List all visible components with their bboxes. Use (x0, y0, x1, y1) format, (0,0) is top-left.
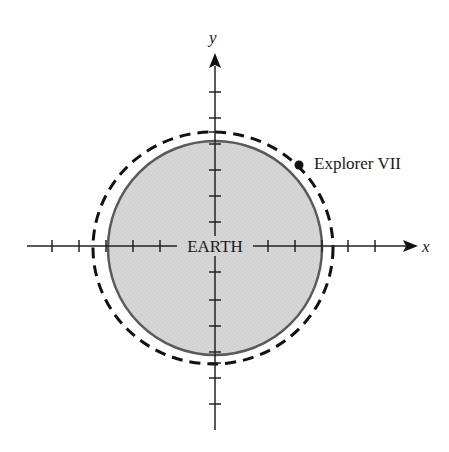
earth-orbit-diagram: x y EARTH Explorer VII (0, 0, 449, 452)
x-axis-label: x (421, 237, 430, 256)
satellite-marker-icon (295, 161, 304, 170)
y-axis-arrow-icon (209, 53, 221, 68)
y-axis-label: y (207, 28, 217, 47)
earth-label: EARTH (187, 237, 243, 256)
satellite-label: Explorer VII (314, 154, 401, 173)
